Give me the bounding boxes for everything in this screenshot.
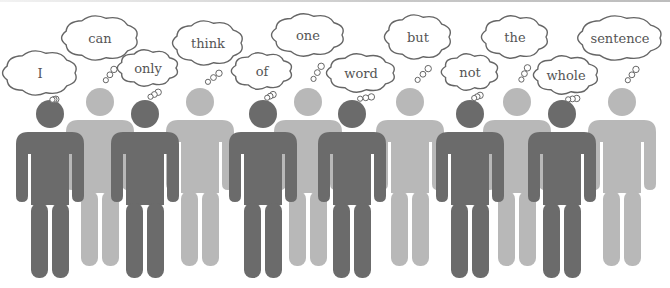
bubble-word-the: the [504,30,525,45]
person-figure-light [376,88,444,268]
bubble-word-not: not [459,65,480,80]
bubble-word-of: of [256,64,269,79]
bubble-word-whole: whole [546,68,585,83]
bubble-word-only: only [134,61,162,76]
bubble-word-sentence: sentence [590,31,649,46]
thought-bubble [384,15,450,83]
thought-bubble [172,21,242,85]
bubble-word-word: word [344,66,378,81]
bubble-word-think: think [191,36,225,51]
bubble-word-but: but [407,30,429,45]
bubble-word-can: can [88,31,111,46]
bubble-word-one: one [296,28,320,43]
person-figure-light [274,88,342,268]
person-figure-light [588,88,656,268]
bubble-word-i: I [37,66,42,81]
